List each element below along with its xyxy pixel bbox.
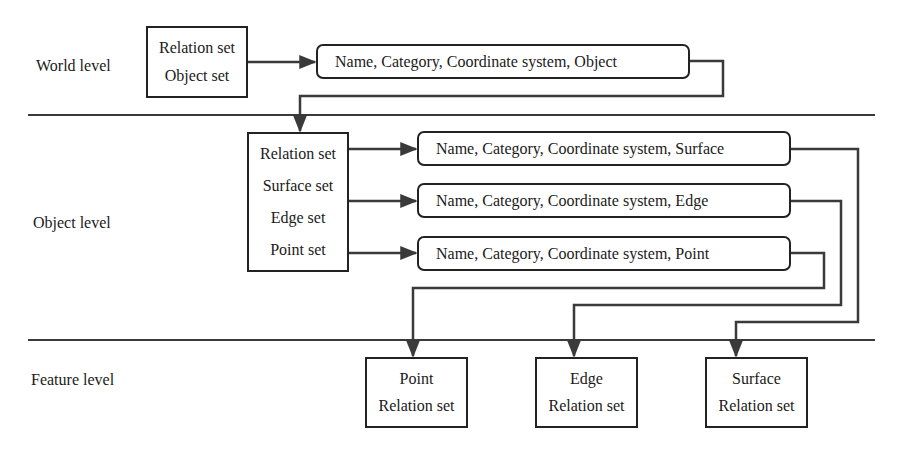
point-attribute-text: Name, Category, Coordinate system, Point (436, 245, 709, 263)
object-surface-set: Surface set (263, 177, 334, 195)
surface-attribute-text: Name, Category, Coordinate system, Surfa… (436, 140, 724, 158)
object-relation-set: Relation set (260, 145, 336, 163)
world-object-set: Object set (165, 67, 229, 85)
feature-edge-relation-set: Relation set (549, 397, 625, 415)
hierarchy-diagram: World level Object level Feature level R… (0, 0, 900, 450)
world-relation-set: Relation set (159, 39, 235, 57)
feature-point-relation-set: Relation set (379, 397, 455, 415)
feature-level-label: Feature level (31, 371, 114, 389)
object-level-label: Object level (33, 214, 111, 232)
edge-attribute-box: Name, Category, Coordinate system, Edge (417, 183, 791, 218)
feature-surface-title: Surface (732, 370, 781, 388)
object-sets-box: Relation set Surface set Edge set Point … (247, 132, 349, 272)
edge-attribute-text: Name, Category, Coordinate system, Edge (436, 192, 708, 210)
point-attribute-box: Name, Category, Coordinate system, Point (417, 236, 791, 271)
feature-point-title: Point (400, 370, 434, 388)
feature-surface-box: Surface Relation set (705, 357, 808, 428)
feature-point-box: Point Relation set (365, 357, 468, 428)
world-attribute-box: Name, Category, Coordinate system, Objec… (316, 44, 690, 79)
feature-edge-title: Edge (570, 370, 603, 388)
world-sets-box: Relation set Object set (146, 26, 248, 98)
world-level-label: World level (36, 57, 111, 75)
object-edge-set: Edge set (271, 209, 326, 227)
feature-surface-relation-set: Relation set (719, 397, 795, 415)
feature-edge-box: Edge Relation set (535, 357, 638, 428)
surface-attribute-box: Name, Category, Coordinate system, Surfa… (417, 131, 791, 166)
world-attribute-text: Name, Category, Coordinate system, Objec… (335, 53, 617, 71)
object-point-set: Point set (270, 241, 326, 259)
